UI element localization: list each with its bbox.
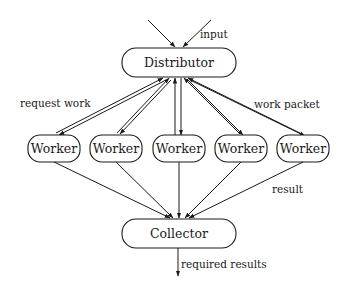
worker-node-4: Worker <box>215 135 267 162</box>
work-packet-label: work packet <box>254 98 320 110</box>
worker-label: Worker <box>156 141 202 156</box>
worker-label: Worker <box>31 141 77 156</box>
worker-node-5: Worker <box>277 135 329 162</box>
request-work-label: request work <box>20 97 91 109</box>
input-label: input <box>200 28 229 40</box>
worker-label: Worker <box>93 141 139 156</box>
farm-diagram: input Distributor request work work pack… <box>0 0 348 291</box>
worker-node-1: Worker <box>28 135 80 162</box>
distributor-label: Distributor <box>144 55 214 70</box>
worker-node-2: Worker <box>90 135 142 162</box>
collector-label: Collector <box>150 226 208 241</box>
distributor-node: Distributor <box>122 48 236 77</box>
worker-collector-edges <box>54 162 303 218</box>
worker-label: Worker <box>280 141 326 156</box>
collector-node: Collector <box>122 219 236 248</box>
worker-label: Worker <box>218 141 264 156</box>
worker-node-3: Worker <box>153 135 205 162</box>
required-results-label: required results <box>181 258 267 270</box>
result-label: result <box>272 183 304 195</box>
